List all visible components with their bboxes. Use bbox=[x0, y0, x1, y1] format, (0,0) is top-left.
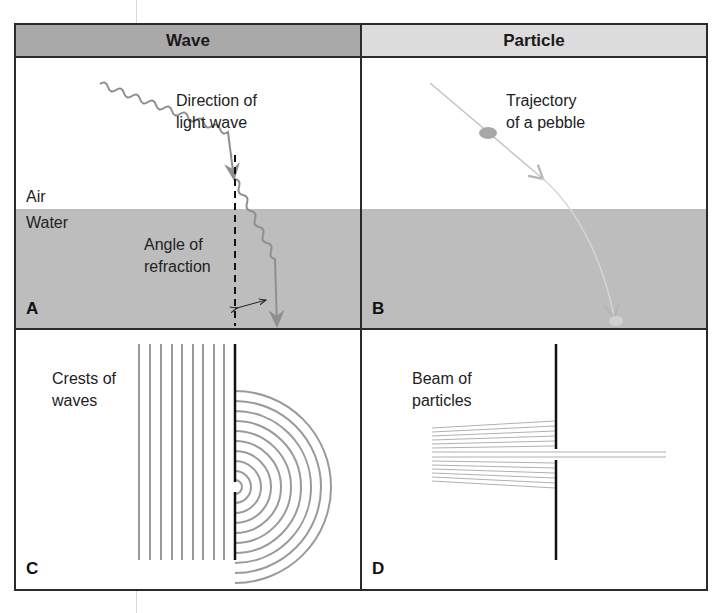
label-direction-line1: Direction of bbox=[176, 91, 257, 111]
header-wave: Wave bbox=[16, 25, 362, 58]
header-wave-label: Wave bbox=[166, 31, 210, 51]
label-trajectory-line2: of a pebble bbox=[506, 113, 585, 133]
label-air: Air bbox=[26, 187, 46, 207]
panel-a-wave-refraction: Direction of light wave Air Water Angle … bbox=[16, 58, 362, 330]
panel-letter-a: A bbox=[26, 299, 38, 319]
pebble-icon bbox=[609, 316, 623, 326]
label-crests-line1: Crests of bbox=[52, 369, 116, 389]
panel-c-wave-diffraction: Crests of waves C bbox=[16, 330, 362, 589]
panel-d-particle-beam: Beam of particles D bbox=[362, 330, 706, 589]
label-angle-line2: refraction bbox=[144, 257, 211, 277]
label-angle-line1: Angle of bbox=[144, 235, 203, 255]
panel-letter-c: C bbox=[26, 559, 38, 579]
header-particle-label: Particle bbox=[503, 31, 564, 51]
label-beam-line1: Beam of bbox=[412, 369, 472, 389]
pebble-icon bbox=[479, 127, 497, 139]
label-trajectory-line1: Trajectory bbox=[506, 91, 577, 111]
panel-b-pebble-trajectory: Trajectory of a pebble B bbox=[362, 58, 706, 330]
panel-letter-b: B bbox=[372, 299, 384, 319]
panel-letter-d: D bbox=[372, 559, 384, 579]
header-particle: Particle bbox=[362, 25, 706, 58]
label-beam-line2: particles bbox=[412, 391, 472, 411]
label-water: Water bbox=[26, 213, 68, 233]
wave-particle-diagram: Wave Particle Direction of bbox=[14, 23, 708, 591]
label-crests-line2: waves bbox=[52, 391, 97, 411]
label-direction-line2: light wave bbox=[176, 113, 247, 133]
